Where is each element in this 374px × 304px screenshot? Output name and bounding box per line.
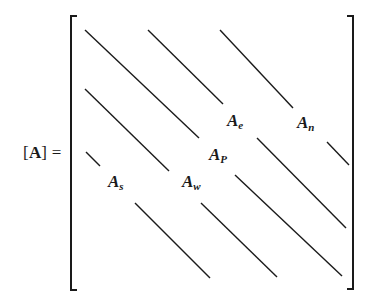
equals-sign: =: [47, 143, 61, 162]
diagonal-main-upper: [85, 30, 199, 138]
matrix-label: [A] =: [23, 143, 61, 163]
coefficient-subscript: s: [119, 180, 123, 192]
diagonal-s-upper: [86, 152, 100, 166]
coefficient-subscript: w: [193, 180, 200, 192]
coefficient-subscript: e: [238, 119, 243, 131]
diagonal-e-lower: [257, 138, 346, 228]
coefficient-base: A: [182, 172, 193, 191]
diagonal-w-lower: [201, 203, 277, 277]
coefficient-subscript: n: [308, 121, 314, 133]
coefficient-a-w: Aw: [182, 173, 201, 192]
coefficient-a-n: An: [297, 114, 314, 133]
coefficient-base: A: [297, 113, 308, 132]
coefficient-base: A: [227, 111, 238, 130]
coefficient-a-s: As: [108, 173, 124, 192]
coefficient-base: A: [209, 145, 220, 164]
diagonal-n-upper: [220, 30, 293, 108]
coefficient-base: A: [108, 172, 119, 191]
diagonal-e-upper: [148, 30, 223, 104]
left-bracket: [71, 16, 77, 290]
diagonal-n-lower: [327, 142, 349, 165]
right-bracket: [347, 16, 353, 289]
diagonal-s-lower: [135, 203, 210, 278]
diagonal-main-lower: [235, 175, 342, 276]
matrix-symbol: A: [29, 143, 41, 162]
coefficient-a-p: AP: [209, 146, 227, 165]
coefficient-subscript: P: [220, 153, 227, 165]
diagonal-w-upper: [85, 89, 169, 171]
coefficient-a-e: Ae: [227, 112, 243, 131]
